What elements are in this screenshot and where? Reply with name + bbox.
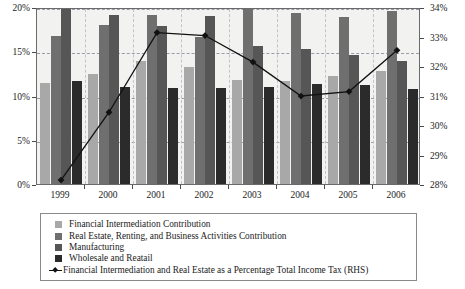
bar-group [373,9,420,184]
bar [387,11,397,184]
bar [253,46,263,184]
bar [349,55,359,184]
y-axis-right-tick [420,8,424,9]
bar [232,80,242,184]
x-axis-tick-label: 2005 [325,190,371,200]
bar [157,26,167,184]
x-axis-tick-label: 2002 [181,190,227,200]
bar [109,15,119,184]
y-axis-left-tick [32,97,36,98]
bar [40,83,50,184]
y-axis-right-tick [420,156,424,157]
bar-group [37,9,85,184]
y-axis-right-tick-label: 34% [430,3,447,13]
y-axis-right-tick-label: 33% [430,33,447,43]
legend-swatch-icon [55,233,62,240]
y-axis-left-tick-label: 15% [0,47,30,57]
y-axis-right-tick [420,126,424,127]
bar [147,15,157,184]
bar [88,74,98,184]
bar [243,8,253,184]
bar [376,71,386,184]
bar-group [277,9,325,184]
bar [195,37,205,184]
x-axis-tick-label: 1999 [37,190,83,200]
bar [280,81,290,184]
bar-group [229,9,277,184]
x-axis-tick [180,185,181,189]
bar-group [181,9,229,184]
legend-item[interactable]: Financial Intermediation and Real Estate… [49,265,410,276]
x-axis-tick [84,185,85,189]
legend-line-marker-icon [49,267,62,274]
x-axis-tick [276,185,277,189]
legend-swatch-icon [55,255,62,262]
bar [301,49,311,184]
x-axis-tick [372,185,373,189]
bar [184,67,194,184]
x-axis-tick-label: 2000 [85,190,131,200]
y-axis-right-tick-label: 32% [430,62,447,72]
x-axis-tick-label: 2003 [229,190,275,200]
y-axis-left-tick [32,185,36,186]
y-axis-left-tick [32,141,36,142]
legend-item[interactable]: Financial Intermediation Contribution [49,219,410,230]
x-axis-tick [228,185,229,189]
y-axis-right-tick-label: 29% [430,151,447,161]
bar [205,16,215,184]
bar [312,84,322,184]
legend-item[interactable]: Wholesale and Reatail [49,253,410,264]
bar [136,61,146,184]
y-axis-left-tick-label: 20% [0,3,30,13]
legend-item-label: Manufacturing [69,242,124,253]
legend-item-label: Financial Intermediation and Real Estate… [63,265,368,276]
bar [99,25,109,184]
y-axis-left-tick [32,8,36,9]
bar [328,76,338,184]
chart-figure: 0%5%10%15%20%28%29%30%31%32%33%34%199920… [0,0,465,289]
bar [72,81,82,184]
bar [339,17,349,184]
x-axis-tick-label: 2001 [133,190,179,200]
bar [397,61,407,184]
x-axis-tick-label: 2004 [277,190,323,200]
bar [291,13,301,184]
legend-item-label: Wholesale and Reatail [69,253,153,264]
y-axis-right-tick-label: 30% [430,121,447,131]
bar [360,85,370,184]
legend-item-label: Real Estate, Renting, and Business Activ… [69,231,286,242]
plot-area [36,8,420,185]
y-axis-right-tick [420,185,424,186]
y-axis-left-tick [32,52,36,53]
bars-layer [37,9,419,184]
x-axis-tick [132,185,133,189]
bar [216,88,226,184]
bar [264,87,274,184]
y-axis-left-tick-label: 5% [0,136,30,146]
x-axis-tick [324,185,325,189]
y-axis-left-tick-label: 10% [0,92,30,102]
y-axis-right-tick [420,97,424,98]
bar [120,87,130,184]
legend-item[interactable]: Real Estate, Renting, and Business Activ… [49,230,410,241]
y-axis-right-tick-label: 28% [430,180,447,190]
bar [61,8,71,184]
legend-swatch-icon [55,221,62,228]
legend-item-label: Financial Intermediation Contribution [69,219,211,230]
chart-legend: Financial Intermediation ContributionRea… [40,213,417,281]
bar [168,88,178,184]
x-axis-tick-label: 2006 [373,190,419,200]
legend-item[interactable]: Manufacturing [49,242,410,253]
y-axis-right-tick [420,38,424,39]
legend-swatch-icon [55,244,62,251]
bar-group [133,9,181,184]
y-axis-left-tick-label: 0% [0,180,30,190]
y-axis-right-tick-label: 31% [430,92,447,102]
bar-group [85,9,133,184]
bar [51,36,61,184]
bar-group [325,9,373,184]
bar [408,89,418,184]
y-axis-right-tick [420,67,424,68]
